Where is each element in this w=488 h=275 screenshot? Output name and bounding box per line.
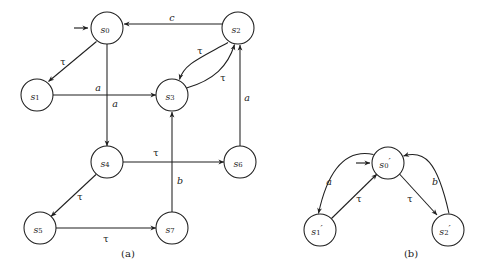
node-s7[interactable]: s7 <box>156 212 188 244</box>
node-s1[interactable]: s1 <box>21 79 53 111</box>
node-s3[interactable]: s3 <box>156 79 188 111</box>
edge-label-s0p-s1p: a <box>326 176 332 187</box>
node-s0p[interactable]: s0′ <box>372 147 404 179</box>
node-s5[interactable]: s5 <box>24 212 56 244</box>
diagram-b-nodes: s0′ s1′ s2′ <box>304 147 464 246</box>
edge-label-s7-s3: b <box>177 175 183 186</box>
edge-s4-s5 <box>51 175 96 217</box>
edge-s1p-s0p <box>332 174 378 219</box>
edge-s3-s2 <box>187 45 235 89</box>
node-s2[interactable]: s2 <box>222 12 254 44</box>
edge-label-s3-s2: τ <box>220 72 225 83</box>
edge-label-s2-s3: τ <box>197 45 202 56</box>
figure-root: s0 s1 s2 s3 s4 <box>0 0 488 275</box>
node-s4[interactable]: s4 <box>91 146 123 178</box>
edge-label-s4-s5: τ <box>77 191 82 202</box>
edge-label-s0p-s2p: τ <box>407 193 412 204</box>
lts-figure-canvas: s0 s1 s2 s3 s4 <box>0 0 488 275</box>
caption-b: (b) <box>404 248 418 259</box>
node-s6[interactable]: s6 <box>224 146 256 178</box>
edge-label-s2p-s0p: b <box>432 176 438 187</box>
edge-s2p-s0p <box>404 154 450 213</box>
edge-label-s5-s7: τ <box>103 233 108 244</box>
node-s1p[interactable]: s1′ <box>304 214 336 246</box>
edge-label-s0-s4: a <box>112 98 118 109</box>
edge-label-s1p-s0p: τ <box>356 193 361 204</box>
caption-a: (a) <box>121 248 135 259</box>
edge-label-s4-s6: τ <box>153 147 158 158</box>
edge-label-s6-s2: a <box>244 92 250 103</box>
diagram-b: s0′ s1′ s2′ a τ b τ (b) <box>304 147 464 259</box>
edge-label-s0-s1: τ <box>60 56 65 67</box>
edge-label-s2-s0: c <box>169 12 175 23</box>
diagram-b-edge-labels: a τ b τ <box>326 176 438 204</box>
node-s2p[interactable]: s2′ <box>432 214 464 246</box>
edge-s0-s1 <box>49 42 97 82</box>
node-s0[interactable]: s0 <box>91 12 123 44</box>
diagram-a: s0 s1 s2 s3 s4 <box>21 12 256 259</box>
edge-label-s1-s3: a <box>95 82 101 93</box>
